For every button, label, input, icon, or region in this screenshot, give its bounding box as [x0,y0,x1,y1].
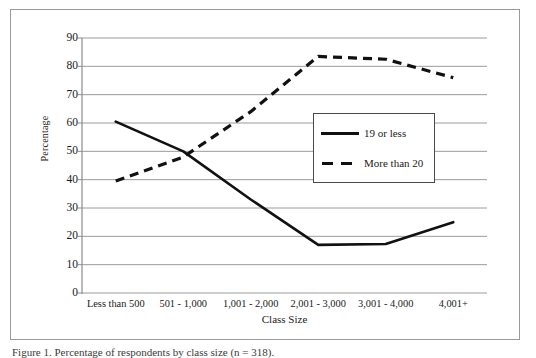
x-tick-label-1: 501 - 1,000 [159,297,207,310]
x-tick-label-0: Less than 500 [87,297,145,310]
solid-line-swatch-icon [321,127,359,139]
y-tick-label-80: 80 [52,60,78,71]
y-tick-label-90: 90 [52,32,78,43]
y-tick-label-60: 60 [52,117,78,128]
y-tick-label-0: 0 [52,287,78,298]
y-tick-label-30: 30 [52,202,78,213]
chart-legend: 19 or less More than 20 [313,113,435,183]
dashed-line-swatch-icon [321,157,359,169]
legend-entry-19-or-less[interactable]: 19 or less [314,122,436,144]
y-axis-tick-labels: 9080706050403020100 [50,0,78,355]
x-tick-label-4: 3,001 - 4,000 [358,297,413,310]
y-axis-title: Percentage [39,79,50,199]
legend-entry-more-than-20[interactable]: More than 20 [314,152,436,174]
y-tick-label-70: 70 [52,89,78,100]
legend-label-19-or-less: 19 or less [364,127,406,139]
x-tick-label-5: 4,001+ [439,297,468,310]
y-tick-label-40: 40 [52,174,78,185]
figure-caption: Figure 1. Percentage of respondents by c… [12,346,512,358]
x-tick-label-2: 1,001 - 2,000 [223,297,278,310]
y-tick-label-10: 10 [52,259,78,270]
x-axis-title: Class Size [82,313,487,325]
y-tick-label-20: 20 [52,230,78,241]
x-axis-tick-labels: Less than 500501 - 1,0001,001 - 2,0002,0… [82,297,487,313]
x-tick-label-3: 2,001 - 3,000 [291,297,346,310]
y-tick-label-50: 50 [52,145,78,156]
legend-label-more-than-20: More than 20 [364,157,423,169]
